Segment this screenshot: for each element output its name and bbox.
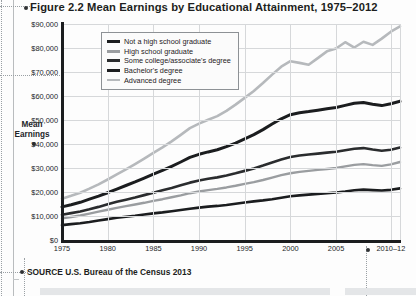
gridline-horizontal (62, 120, 400, 121)
legend-item-label: Some college/associate's degree (124, 56, 231, 65)
x-axis-tick-label: 2010–12 (369, 244, 413, 253)
legend-item: High school graduate (107, 47, 231, 57)
gridline-horizontal (62, 216, 400, 217)
y-axis-tick-label: $40,000 (2, 140, 58, 149)
source-bullet-icon (20, 270, 24, 274)
y-axis-tick-label: $50,000 (2, 116, 58, 125)
legend-item: Advanced degree (107, 75, 231, 85)
legend-item-label: High school graduate (124, 47, 193, 56)
legend-item-label: Bachelor's degree (124, 66, 183, 75)
legend-item: Not a high school graduate (107, 37, 231, 47)
gridline-horizontal (62, 168, 400, 169)
page-footer-band-left (40, 288, 330, 295)
gridline-horizontal (62, 96, 400, 97)
x-axis-line (61, 240, 401, 243)
y-axis-tick-label: $20,000 (2, 188, 58, 197)
x-axis-tick-label: 1990 (177, 244, 221, 253)
legend-swatch-icon (107, 50, 120, 52)
legend-item: Some college/associate's degree (107, 56, 231, 66)
legend-swatch-icon (107, 69, 120, 72)
legend-item-label: Advanced degree (124, 76, 181, 85)
page-footer-band-right (345, 288, 416, 295)
figure-title: Figure 2.2 Mean Earnings by Educational … (30, 1, 378, 13)
legend-swatch-icon (107, 79, 120, 81)
gridline-horizontal (62, 24, 400, 25)
source-note: SOURCE U.S. Bureau of the Census 2013 (27, 267, 191, 277)
y-axis-tick-label: $10,000 (2, 212, 58, 221)
y-axis-tick-label: $30,000 (2, 164, 58, 173)
x-axis-tick-label: 1995 (223, 244, 267, 253)
legend-item-label: Not a high school graduate (124, 37, 211, 46)
gridline-vertical (336, 24, 337, 240)
x-axis-tick-label: 1985 (131, 244, 175, 253)
gridline-vertical (290, 24, 291, 240)
legend-swatch-icon (107, 59, 120, 62)
y-axis-tick-label: $60,000 (2, 92, 58, 101)
gridline-vertical (391, 24, 392, 240)
legend-item: Bachelor's degree (107, 66, 231, 76)
x-axis-tick-label: 1975 (40, 244, 84, 253)
plot-right-border (400, 24, 401, 240)
y-axis-tick-label: $70,000 (2, 68, 58, 77)
y-axis-line (61, 22, 64, 242)
x-axis-tick-label: 1980 (86, 244, 130, 253)
x-axis-tick-label: 2000 (268, 244, 312, 253)
x-axis-tick-label: 2005 (314, 244, 358, 253)
gridline-horizontal (62, 144, 400, 145)
series-line (62, 188, 400, 225)
x-axis-bullet-icon (366, 248, 370, 252)
gridline-horizontal (62, 192, 400, 193)
chart-legend: Not a high school graduateHigh school gr… (101, 32, 239, 90)
gridline-vertical (245, 24, 246, 240)
y-axis-tick-label: $80,000 (2, 44, 58, 53)
legend-swatch-icon (107, 40, 120, 43)
figure-container: Figure 2.2 Mean Earnings by Educational … (0, 0, 416, 296)
y-axis-tick-label: $90,000 (2, 20, 58, 29)
